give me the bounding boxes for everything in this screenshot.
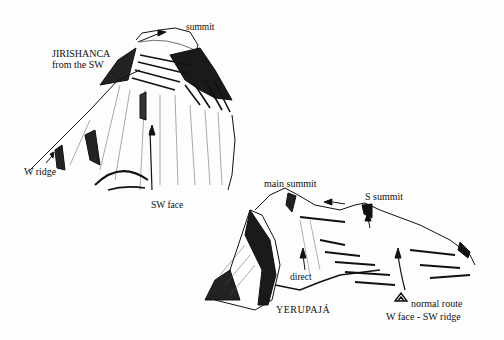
tent-icon <box>394 292 408 302</box>
sw-face-label: SW face <box>151 200 183 211</box>
main-summit-label: main summit <box>264 178 317 189</box>
s-summit-label: S summit <box>365 191 403 202</box>
jirishanca-subtitle: from the SW <box>52 59 104 70</box>
jirishanca-summit-label: summit <box>186 22 215 33</box>
normal-route-detail-label: W face - SW ridge <box>386 311 461 322</box>
direct-route-label: direct <box>290 272 312 283</box>
normal-route-label: normal route <box>411 298 462 309</box>
yerupaja-drawing <box>205 188 475 310</box>
w-ridge-label: W ridge <box>24 166 56 177</box>
route-sketch-canvas: JIRISHANCA from the SW summit W ridge SW… <box>0 0 504 340</box>
jirishanca-title: JIRISHANCA <box>52 48 110 59</box>
yerupaja-title: YERUPAJÁ <box>276 304 330 315</box>
